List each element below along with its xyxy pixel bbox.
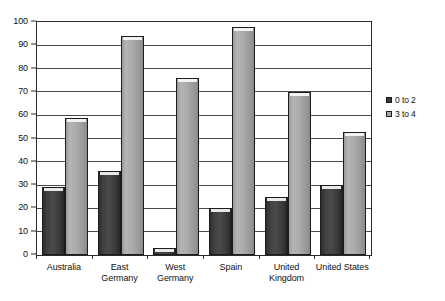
bar-highlight — [267, 198, 286, 201]
bar-chart: 0102030405060708090100 AustraliaEast Ger… — [0, 0, 445, 301]
bar-highlight — [178, 79, 197, 82]
y-axis-tick-label: 50 — [18, 133, 28, 142]
y-axis-tick-label: 100 — [13, 17, 28, 26]
bar-highlight — [211, 209, 230, 212]
bar[interactable] — [153, 248, 176, 255]
x-axis-category-label: United Kingdom — [259, 256, 315, 298]
bar-highlight — [345, 133, 364, 136]
legend-item[interactable]: 0 to 2 — [386, 96, 444, 105]
x-axis-tick-mark — [259, 255, 260, 259]
bar[interactable] — [121, 36, 144, 255]
x-axis-category-label: United States — [314, 256, 370, 298]
y-axis-tick-label: 80 — [18, 63, 28, 72]
bar[interactable] — [320, 185, 343, 255]
bar-group — [260, 22, 316, 255]
bar[interactable] — [343, 132, 366, 255]
bars-layer — [37, 22, 371, 255]
bar[interactable] — [98, 171, 121, 255]
x-axis-tick-mark — [314, 255, 315, 259]
bar-group — [93, 22, 149, 255]
plot-area — [36, 21, 372, 256]
x-axis-category-label: West Germany — [147, 256, 203, 298]
bar-group — [204, 22, 260, 255]
legend-label: 3 to 4 — [395, 110, 416, 119]
bar-group — [37, 22, 93, 255]
bar-highlight — [155, 249, 174, 252]
bar[interactable] — [288, 92, 311, 255]
y-axis-tick-label: 90 — [18, 40, 28, 49]
x-axis-tick-mark — [147, 255, 148, 259]
bar-highlight — [67, 119, 86, 122]
bar-group — [148, 22, 204, 255]
legend-item[interactable]: 3 to 4 — [386, 110, 444, 119]
bar[interactable] — [265, 197, 288, 255]
legend-label: 0 to 2 — [395, 96, 416, 105]
bar-highlight — [322, 186, 341, 189]
legend-swatch-icon — [386, 111, 392, 117]
bar[interactable] — [232, 27, 255, 255]
bar-highlight — [290, 93, 309, 96]
bar-group — [315, 22, 371, 255]
bar-highlight — [100, 172, 119, 175]
y-axis-tick-label: 60 — [18, 110, 28, 119]
y-axis-tick-label: 30 — [18, 180, 28, 189]
bar[interactable] — [209, 208, 232, 255]
bar[interactable] — [65, 118, 88, 255]
x-axis-tick-mark — [369, 255, 370, 259]
chart-legend: 0 to 23 to 4 — [386, 96, 444, 123]
bar[interactable] — [42, 187, 65, 255]
y-axis-tick-label: 10 — [18, 226, 28, 235]
legend-swatch-icon — [386, 97, 392, 103]
x-axis-category-label: East Germany — [92, 256, 148, 298]
bar-highlight — [234, 28, 253, 31]
x-axis-tick-mark — [36, 255, 37, 259]
x-axis-category-label: Spain — [203, 256, 259, 298]
x-axis-tick-mark — [203, 255, 204, 259]
x-axis-tick-mark — [92, 255, 93, 259]
x-axis-category-label: Australia — [36, 256, 92, 298]
bar-highlight — [123, 37, 142, 40]
y-axis-tick-label: 0 — [23, 250, 28, 259]
x-axis: AustraliaEast GermanyWest GermanySpainUn… — [36, 256, 370, 298]
bar-highlight — [44, 188, 63, 191]
y-axis-tick-label: 40 — [18, 156, 28, 165]
bar[interactable] — [176, 78, 199, 255]
y-axis-tick-label: 20 — [18, 203, 28, 212]
y-axis: 0102030405060708090100 — [0, 21, 36, 254]
y-axis-tick-label: 70 — [18, 86, 28, 95]
